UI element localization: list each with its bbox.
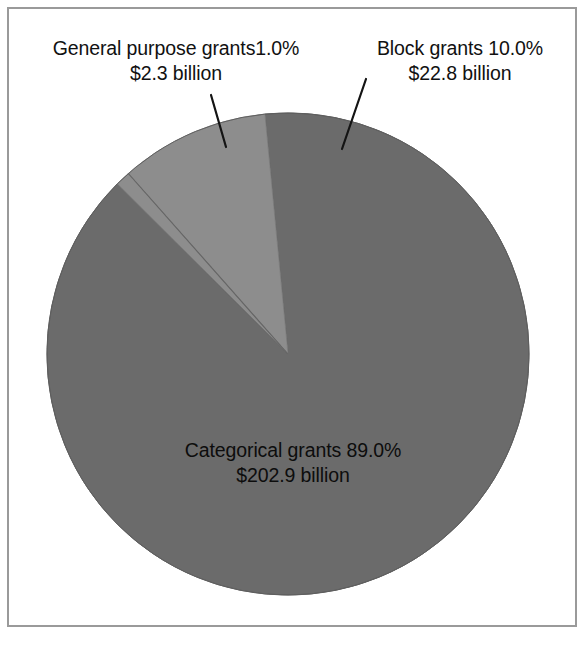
- slice-label-general-purpose-line1: General purpose grants1.0%: [53, 37, 300, 59]
- slice-label-categorical-line1: Categorical grants 89.0%: [185, 439, 402, 461]
- slice-label-block-grants: Block grants 10.0% $22.8 billion: [352, 36, 568, 86]
- pie-chart-figure: General purpose grants1.0% $2.3 billion …: [0, 0, 586, 651]
- slice-label-block-grants-line2: $22.8 billion: [352, 61, 568, 86]
- slice-label-categorical-grants: Categorical grants 89.0% $202.9 billion: [148, 438, 438, 488]
- pie-chart-canvas: [0, 0, 586, 651]
- slice-label-categorical-line2: $202.9 billion: [148, 463, 438, 488]
- slice-label-block-grants-line1: Block grants 10.0%: [377, 37, 543, 59]
- slice-label-general-purpose-line2: $2.3 billion: [28, 61, 324, 86]
- slice-label-general-purpose-grants: General purpose grants1.0% $2.3 billion: [28, 36, 324, 86]
